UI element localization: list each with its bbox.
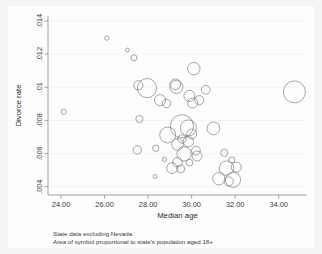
y-tick-label: .006 [35, 146, 44, 160]
y-tick-label: .012 [35, 47, 44, 61]
bubble-point [283, 81, 305, 103]
chart-figure: 24.0026.0028.0030.0032.0034.00 .014.012.… [0, 0, 322, 254]
scatter-plot: 24.0026.0028.0030.0032.0034.00 .014.012.… [8, 6, 314, 248]
bubble-point [207, 122, 220, 135]
x-tick-labels: 24.0026.0028.0030.0032.0034.00 [52, 200, 288, 209]
bubble-point [153, 145, 159, 151]
bubble-point [201, 85, 210, 94]
bubble-point [137, 79, 156, 98]
caption-line-2: Area of symbol proportional to state's p… [53, 238, 213, 245]
bubble-point [162, 99, 170, 107]
y-tick-label: .014 [35, 14, 44, 28]
x-tick-label: 24.00 [52, 200, 71, 209]
bubble-point [184, 90, 195, 101]
bubble-point [162, 157, 166, 161]
gridlines [48, 21, 307, 187]
bubble-point [153, 174, 157, 178]
x-tick-label: 32.00 [226, 200, 245, 209]
bubble-point [126, 48, 130, 52]
x-tick-label: 28.00 [139, 200, 158, 209]
bubble-point [133, 146, 141, 154]
y-tick-labels: .014.012.01.008.006.004 [35, 14, 44, 194]
bubble-point [188, 63, 200, 75]
bubble-point [134, 81, 143, 90]
bubble-point [221, 149, 228, 156]
bubble-point [213, 173, 225, 185]
bubble-point [61, 109, 66, 114]
axis-lines [45, 16, 308, 199]
bubble-point [170, 115, 193, 138]
y-tick-label: .008 [35, 113, 44, 127]
bubble-point [105, 36, 109, 40]
chart-canvas: 24.0026.0028.0030.0032.0034.00 .014.012.… [8, 6, 314, 248]
y-tick-label: .004 [35, 180, 44, 194]
bubble-point [180, 120, 196, 136]
x-tick-label: 34.00 [269, 200, 288, 209]
bubble-point [188, 98, 198, 108]
x-tick-label: 26.00 [95, 200, 114, 209]
caption-line-1: State data excluding Nevada [53, 230, 133, 237]
x-tick-label: 30.00 [182, 200, 201, 209]
bubble-series [61, 36, 305, 188]
bubble-point [173, 157, 183, 167]
bubble-point [167, 163, 178, 174]
y-axis-title: Divorce rate [14, 84, 23, 126]
bubble-point [136, 115, 143, 122]
bubble-point [195, 96, 204, 105]
bubble-point [131, 55, 137, 61]
bubble-point [192, 151, 202, 161]
bubble-point [172, 139, 184, 151]
y-tick-label: .01 [35, 82, 44, 92]
bubble-point [186, 159, 193, 166]
x-axis-title: Median age [157, 211, 198, 220]
bubble-point [231, 162, 241, 172]
